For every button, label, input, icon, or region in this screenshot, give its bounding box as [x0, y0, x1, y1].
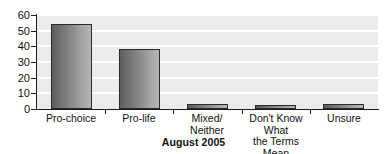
- x-axis-separator-tick: [173, 110, 174, 114]
- y-axis-tick: [31, 62, 36, 63]
- bar: [119, 49, 160, 109]
- x-axis-separator-tick: [310, 110, 311, 114]
- x-axis-category-label-line: Neither: [173, 125, 241, 137]
- y-axis-tick: [31, 78, 36, 79]
- y-axis-tick: [31, 93, 36, 94]
- bar-chart: 6050403020100 Pro-choicePro-lifeMixed/Ne…: [0, 0, 387, 154]
- y-axis-tick-label: 40: [2, 41, 30, 52]
- y-axis-tick-label: 50: [2, 26, 30, 37]
- y-axis-tick: [31, 31, 36, 32]
- y-axis-labels: 6050403020100: [0, 0, 30, 154]
- x-axis-category-label: Pro-life: [105, 113, 173, 125]
- chart-title: August 2005: [0, 136, 387, 148]
- y-axis-tick-label: 60: [2, 10, 30, 21]
- y-axis-tick-label: 30: [2, 57, 30, 68]
- x-axis-category-label: Mixed/Neither: [173, 113, 241, 136]
- x-axis-line: [36, 109, 379, 110]
- y-axis-tick-label: 0: [2, 104, 30, 115]
- x-axis-separator-tick: [242, 110, 243, 114]
- bar: [51, 24, 92, 109]
- x-axis-category-label-line: Mixed/: [173, 113, 241, 125]
- y-axis-tick: [31, 46, 36, 47]
- x-axis-category-label-line: Pro-life: [105, 113, 173, 125]
- x-axis-category-label-line: Pro-choice: [37, 113, 105, 125]
- y-axis-tick: [31, 15, 36, 16]
- bar: [187, 104, 228, 109]
- x-axis-category-label: Unsure: [310, 113, 378, 125]
- bar-series: [37, 15, 378, 109]
- y-axis-tick-label: 10: [2, 88, 30, 99]
- bar: [255, 105, 296, 109]
- x-axis-category-label-line: Unsure: [310, 113, 378, 125]
- y-axis-tick: [31, 109, 36, 110]
- cut-off-text-sliver: [0, 0, 387, 7]
- plot-area: [37, 15, 378, 109]
- x-axis-category-labels: Pro-choicePro-lifeMixed/NeitherDon't Kno…: [37, 113, 378, 137]
- y-axis-tick-label: 20: [2, 73, 30, 84]
- x-axis-category-label-line: Don't Know What: [242, 113, 310, 136]
- x-axis-separator-tick: [105, 110, 106, 114]
- bar: [323, 104, 364, 109]
- x-axis-category-label: Pro-choice: [37, 113, 105, 125]
